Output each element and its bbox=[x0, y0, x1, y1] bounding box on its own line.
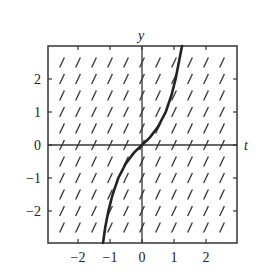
slope-mark bbox=[108, 91, 113, 101]
slope-mark bbox=[108, 124, 113, 134]
slope-mark bbox=[220, 91, 225, 101]
slope-mark bbox=[92, 190, 97, 200]
slope-mark bbox=[220, 124, 225, 134]
y-tick-label: 2 bbox=[34, 72, 41, 87]
slope-mark bbox=[76, 91, 81, 101]
slope-mark bbox=[92, 107, 97, 117]
slope-mark bbox=[204, 206, 209, 216]
slope-mark bbox=[156, 223, 161, 233]
slope-mark bbox=[60, 58, 65, 68]
slope-mark bbox=[188, 124, 193, 134]
slope-mark bbox=[108, 58, 113, 68]
y-tick-label: −2 bbox=[26, 204, 41, 219]
slope-mark bbox=[156, 157, 161, 167]
slope-mark bbox=[60, 74, 65, 84]
slope-mark bbox=[92, 124, 97, 134]
slope-mark bbox=[108, 223, 113, 233]
slope-mark bbox=[204, 173, 209, 183]
slope-mark bbox=[156, 190, 161, 200]
slope-mark bbox=[60, 157, 65, 167]
y-axis-label: y bbox=[136, 28, 145, 43]
slope-mark bbox=[60, 206, 65, 216]
slope-field-plot: t y −2−1012210−1−2 bbox=[0, 0, 261, 280]
slope-mark bbox=[76, 223, 81, 233]
slope-mark bbox=[76, 124, 81, 134]
slope-mark bbox=[124, 206, 129, 216]
slope-mark bbox=[156, 58, 161, 68]
slope-mark bbox=[188, 157, 193, 167]
slope-mark bbox=[60, 91, 65, 101]
slope-mark bbox=[124, 107, 129, 117]
slope-mark bbox=[204, 124, 209, 134]
slope-mark bbox=[124, 124, 129, 134]
slope-mark bbox=[188, 58, 193, 68]
slope-mark bbox=[76, 173, 81, 183]
slope-mark bbox=[204, 223, 209, 233]
slope-mark bbox=[124, 91, 129, 101]
slope-mark bbox=[60, 107, 65, 117]
slope-mark bbox=[220, 157, 225, 167]
slope-mark bbox=[108, 107, 113, 117]
t-axis-label: t bbox=[244, 138, 249, 153]
slope-mark bbox=[188, 223, 193, 233]
slope-mark bbox=[92, 58, 97, 68]
slope-mark bbox=[60, 190, 65, 200]
slope-mark bbox=[188, 74, 193, 84]
slope-mark bbox=[204, 157, 209, 167]
slope-mark bbox=[172, 173, 177, 183]
slope-mark bbox=[156, 74, 161, 84]
slope-mark bbox=[204, 58, 209, 68]
slope-mark bbox=[76, 190, 81, 200]
slope-mark bbox=[124, 58, 129, 68]
slope-mark bbox=[204, 190, 209, 200]
slope-mark bbox=[220, 107, 225, 117]
slope-mark bbox=[76, 157, 81, 167]
slope-mark bbox=[108, 74, 113, 84]
slope-mark bbox=[204, 91, 209, 101]
slope-mark bbox=[76, 107, 81, 117]
slope-mark bbox=[108, 157, 113, 167]
slope-mark bbox=[172, 157, 177, 167]
slope-mark bbox=[204, 107, 209, 117]
slope-mark bbox=[156, 107, 161, 117]
slope-mark bbox=[92, 173, 97, 183]
slope-mark bbox=[188, 173, 193, 183]
y-tick-label: −1 bbox=[26, 171, 41, 186]
x-tick-label: −1 bbox=[103, 250, 118, 265]
slope-mark bbox=[188, 91, 193, 101]
slope-mark bbox=[220, 74, 225, 84]
y-tick-label: 1 bbox=[34, 105, 41, 120]
slope-mark bbox=[92, 157, 97, 167]
slope-mark bbox=[172, 124, 177, 134]
slope-mark bbox=[220, 58, 225, 68]
slope-mark bbox=[172, 223, 177, 233]
slope-mark bbox=[108, 173, 113, 183]
slope-mark bbox=[220, 206, 225, 216]
slope-mark bbox=[60, 124, 65, 134]
slope-mark bbox=[172, 206, 177, 216]
slope-mark bbox=[60, 223, 65, 233]
x-tick-label: 1 bbox=[171, 250, 178, 265]
slope-mark bbox=[204, 74, 209, 84]
slope-mark bbox=[92, 223, 97, 233]
slope-mark bbox=[188, 107, 193, 117]
slope-mark bbox=[156, 206, 161, 216]
slope-mark bbox=[76, 206, 81, 216]
slope-mark bbox=[92, 74, 97, 84]
slope-mark bbox=[188, 206, 193, 216]
y-tick-label: 0 bbox=[34, 138, 41, 153]
slope-mark bbox=[220, 223, 225, 233]
x-tick-label: 2 bbox=[203, 250, 210, 265]
slope-mark bbox=[124, 173, 129, 183]
slope-mark bbox=[172, 107, 177, 117]
slope-mark bbox=[172, 190, 177, 200]
slope-mark bbox=[76, 58, 81, 68]
slope-mark bbox=[124, 223, 129, 233]
slope-mark bbox=[220, 190, 225, 200]
slope-mark bbox=[124, 190, 129, 200]
slope-mark bbox=[156, 173, 161, 183]
slope-mark bbox=[60, 173, 65, 183]
slope-mark bbox=[76, 74, 81, 84]
x-tick-label: 0 bbox=[139, 250, 146, 265]
slope-mark bbox=[92, 91, 97, 101]
